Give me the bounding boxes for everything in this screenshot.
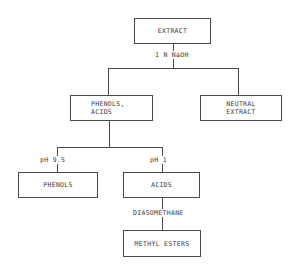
node-phenols-acids-label: PHENOLS, ACIDS [91, 100, 125, 116]
connector-split-2 [57, 147, 163, 148]
node-acids: ACIDS [123, 172, 200, 198]
edge-label-ph-1: pH 1 [150, 156, 167, 164]
node-extract: EXTRACT [134, 18, 211, 44]
connector-to-neutral-extract [238, 68, 239, 95]
node-methyl-esters: METHYL ESTERS [123, 230, 201, 257]
edge-label-diasomethane: DIASOMETHANE [133, 209, 184, 217]
node-neutral-extract: NEUTRAL EXTRACT [200, 95, 282, 121]
edge-label-naoh: 1 N NaOH [155, 51, 189, 59]
node-phenols-label: PHENOLS [43, 181, 73, 189]
node-acids-label: ACIDS [151, 181, 172, 189]
node-neutral-extract-label: NEUTRAL EXTRACT [226, 100, 256, 116]
node-phenols: PHENOLS [18, 172, 98, 198]
node-phenols-acids: PHENOLS, ACIDS [70, 95, 153, 121]
node-extract-label: EXTRACT [158, 27, 188, 35]
connector-phenols-acids-down [109, 120, 110, 147]
node-methyl-esters-label: METHYL ESTERS [135, 240, 190, 248]
connector-to-phenols-acids [108, 68, 109, 95]
connector-split-1 [108, 68, 239, 69]
edge-label-ph-9-5: pH 9.5 [40, 156, 65, 164]
